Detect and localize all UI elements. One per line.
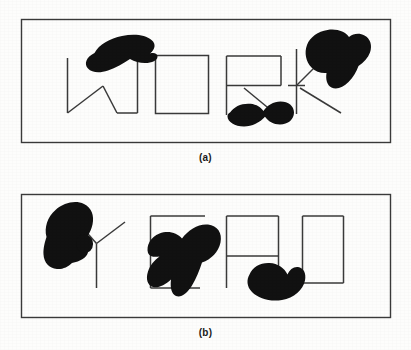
letter-o [156,56,209,114]
blob-over-k [306,30,371,89]
letter-y-arm-right [97,222,126,244]
panel-b [0,175,411,350]
letter-w-stroke-v1-up [68,86,104,113]
figure-root: (a) [0,0,411,350]
letter-w-stroke-v1-down [103,86,117,113]
panel-a [0,0,411,175]
blob-over-a-bottom [247,263,305,301]
letter-k-leg [300,88,341,113]
caption-a: (a) [0,152,411,163]
panel-b-drawing [0,175,411,350]
blob-over-e [147,224,221,296]
blob-over-w [86,35,158,72]
blob-over-r-leg [227,102,294,127]
letter-o-square [156,56,209,114]
caption-b: (b) [0,327,411,338]
panel-a-drawing [0,0,411,175]
letter-d [303,216,344,283]
